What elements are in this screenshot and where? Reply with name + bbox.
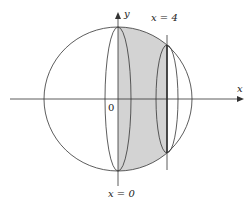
x4-label: x = 4 xyxy=(151,12,178,23)
y-axis-arrow-icon xyxy=(115,12,121,19)
y-axis-label: y xyxy=(123,8,130,19)
shaded-slab-region xyxy=(118,20,167,180)
sphere-slab-diagram: y x 0 x = 4 x = 0 xyxy=(0,0,252,207)
origin-label: 0 xyxy=(108,102,114,113)
x-axis-arrow-icon xyxy=(237,96,244,102)
x0-label: x = 0 xyxy=(108,188,135,199)
x-axis-label: x xyxy=(237,83,243,94)
